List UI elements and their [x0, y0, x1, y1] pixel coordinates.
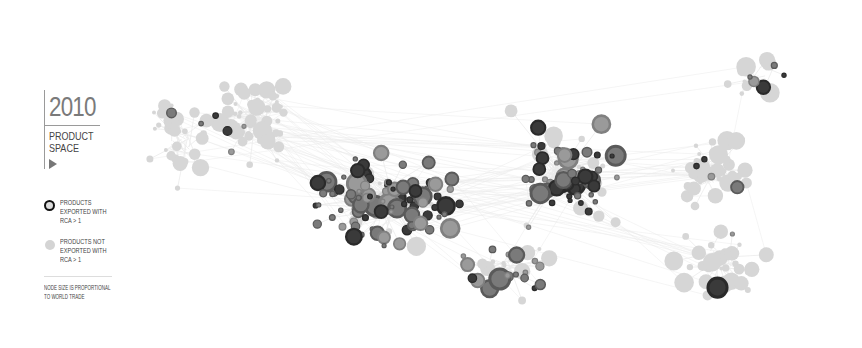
exported-product-node[interactable]: [414, 217, 428, 231]
non-exported-product-node[interactable]: [275, 158, 279, 162]
exported-product-node[interactable]: [490, 269, 510, 289]
exported-product-node[interactable]: [535, 280, 545, 290]
exported-product-node[interactable]: [442, 212, 447, 217]
non-exported-product-node[interactable]: [238, 110, 243, 115]
exported-product-node[interactable]: [702, 157, 707, 162]
exported-product-node[interactable]: [382, 244, 386, 248]
play-triangle-icon[interactable]: [49, 159, 57, 169]
product-space-network[interactable]: [0, 0, 862, 348]
exported-product-node[interactable]: [386, 180, 391, 185]
exported-product-node[interactable]: [311, 176, 325, 190]
exported-product-node[interactable]: [356, 195, 361, 200]
non-exported-product-node[interactable]: [152, 111, 156, 115]
exported-product-node[interactable]: [708, 278, 727, 297]
non-exported-product-node[interactable]: [518, 297, 526, 305]
non-exported-product-node[interactable]: [744, 262, 759, 277]
non-exported-product-node[interactable]: [189, 148, 201, 160]
exported-product-node[interactable]: [399, 161, 406, 168]
exported-product-node[interactable]: [694, 163, 699, 168]
exported-product-node[interactable]: [531, 143, 536, 148]
exported-product-node[interactable]: [527, 225, 531, 229]
non-exported-product-node[interactable]: [708, 188, 723, 203]
non-exported-product-node[interactable]: [726, 256, 730, 260]
exported-product-node[interactable]: [526, 201, 531, 206]
non-exported-product-node[interactable]: [674, 273, 694, 293]
exported-product-node[interactable]: [167, 108, 177, 118]
non-exported-product-node[interactable]: [196, 132, 209, 145]
exported-product-node[interactable]: [381, 199, 385, 203]
non-exported-product-node[interactable]: [189, 107, 199, 117]
exported-product-node[interactable]: [397, 181, 410, 194]
exported-product-node[interactable]: [594, 152, 600, 158]
non-exported-product-node[interactable]: [730, 249, 738, 257]
exported-product-node[interactable]: [572, 177, 580, 185]
exported-product-node[interactable]: [708, 173, 715, 180]
exported-product-node[interactable]: [748, 75, 752, 79]
non-exported-product-node[interactable]: [687, 264, 693, 270]
exported-product-node[interactable]: [558, 148, 572, 162]
non-exported-product-node[interactable]: [697, 152, 701, 156]
exported-product-node[interactable]: [407, 197, 413, 203]
non-exported-product-node[interactable]: [246, 162, 253, 169]
exported-product-node[interactable]: [730, 232, 734, 236]
exported-product-node[interactable]: [329, 215, 335, 221]
exported-product-node[interactable]: [313, 220, 321, 228]
non-exported-product-node[interactable]: [177, 130, 181, 134]
exported-product-node[interactable]: [434, 193, 441, 200]
exported-product-node[interactable]: [521, 274, 529, 282]
non-exported-product-node[interactable]: [537, 247, 541, 251]
non-exported-product-node[interactable]: [593, 210, 604, 221]
exported-product-node[interactable]: [423, 157, 435, 169]
non-exported-product-node[interactable]: [737, 163, 752, 178]
exported-product-node[interactable]: [468, 274, 476, 282]
non-exported-product-node[interactable]: [611, 217, 621, 227]
exported-product-node[interactable]: [445, 173, 458, 186]
non-exported-product-node[interactable]: [234, 102, 238, 106]
exported-product-node[interactable]: [346, 190, 355, 199]
non-exported-product-node[interactable]: [407, 237, 426, 256]
exported-product-node[interactable]: [606, 146, 625, 165]
exported-product-node[interactable]: [543, 177, 548, 182]
exported-product-node[interactable]: [593, 116, 610, 133]
non-exported-product-node[interactable]: [246, 131, 252, 137]
exported-product-node[interactable]: [223, 127, 232, 136]
exported-product-node[interactable]: [771, 62, 777, 68]
non-exported-product-node[interactable]: [248, 125, 252, 129]
exported-product-node[interactable]: [513, 272, 518, 277]
exported-product-node[interactable]: [213, 113, 219, 119]
non-exported-product-node[interactable]: [724, 80, 732, 88]
exported-product-node[interactable]: [199, 121, 204, 126]
non-exported-product-node[interactable]: [269, 92, 278, 101]
non-exported-product-node[interactable]: [378, 181, 382, 185]
exported-product-node[interactable]: [555, 161, 559, 165]
exported-product-node[interactable]: [361, 181, 370, 190]
exported-product-node[interactable]: [731, 181, 743, 193]
non-exported-product-node[interactable]: [260, 134, 276, 150]
exported-product-node[interactable]: [346, 229, 362, 245]
exported-product-node[interactable]: [353, 157, 357, 161]
non-exported-product-node[interactable]: [579, 136, 585, 142]
exported-product-node[interactable]: [593, 200, 597, 204]
exported-product-node[interactable]: [432, 205, 438, 211]
exported-product-node[interactable]: [357, 189, 361, 193]
exported-product-node[interactable]: [389, 210, 393, 214]
non-exported-product-node[interactable]: [736, 57, 756, 77]
exported-product-node[interactable]: [402, 202, 407, 207]
exported-product-node[interactable]: [532, 258, 537, 263]
non-exported-product-node[interactable]: [272, 129, 280, 137]
non-exported-product-node[interactable]: [737, 243, 741, 247]
non-exported-product-node[interactable]: [728, 132, 746, 150]
non-exported-product-node[interactable]: [501, 261, 505, 265]
non-exported-product-node[interactable]: [682, 233, 689, 240]
exported-product-node[interactable]: [531, 184, 550, 203]
non-exported-product-node[interactable]: [491, 259, 496, 264]
exported-product-node[interactable]: [335, 185, 344, 194]
non-exported-product-node[interactable]: [692, 246, 706, 260]
exported-product-node[interactable]: [229, 149, 235, 155]
exported-product-node[interactable]: [579, 201, 584, 206]
non-exported-product-node[interactable]: [275, 78, 292, 95]
exported-product-node[interactable]: [390, 205, 394, 209]
non-exported-product-node[interactable]: [703, 253, 721, 271]
non-exported-product-node[interactable]: [759, 247, 774, 262]
non-exported-product-node[interactable]: [723, 156, 731, 164]
